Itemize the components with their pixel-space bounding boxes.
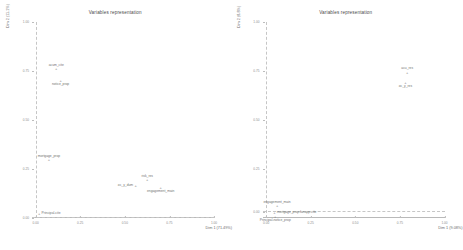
x-axis-label: Dim 1 (71.49%) — [206, 226, 232, 230]
y-tick-label: 0.25 — [253, 167, 262, 171]
point-label: oc_y_dum — [118, 185, 133, 188]
y-tick-label: 0.50 — [253, 118, 262, 122]
x-tick-label: 0.25 — [308, 218, 314, 225]
point-label: Principal-cite — [42, 213, 61, 216]
y-tick-label: 0.75 — [23, 69, 32, 73]
point-marker: + — [48, 158, 50, 162]
chart-panel-left: Variables representation 1.00 0.75 0.50 … — [0, 0, 231, 250]
point-marker: + — [55, 67, 57, 71]
chart-title: Variables representation — [0, 10, 231, 15]
plot-area-right: 1.00 0.75 0.50 0.25 0.00 0.00 0.25 0.50 … — [263, 22, 445, 218]
point-label: mortgage_prop-lanapp-cite — [277, 211, 317, 214]
y-axis-label: Dim 2 (8.8%) — [237, 6, 241, 28]
point-label: oc_y_res — [399, 85, 412, 88]
point-label: acu_res — [401, 67, 413, 70]
x-tick-label: 0.25 — [77, 218, 83, 225]
point-label: mortgage_prop — [38, 155, 60, 158]
x-tick-label: 0.50 — [122, 218, 128, 225]
point-label: engagement_main — [263, 201, 290, 204]
x-tick-label: 0.75 — [397, 218, 403, 225]
point-label: acum_cite — [49, 64, 64, 67]
y-axis-label: Dim 2 (11.1%) — [6, 4, 10, 28]
x-tick-label: 0.50 — [352, 218, 358, 225]
x-axis-label: Dim 1 (9.08%) — [438, 226, 462, 230]
point-label: engagement_main — [147, 190, 174, 193]
point-label: risk_res — [141, 174, 153, 177]
x-tick-label: 1.00 — [441, 218, 447, 225]
point-marker: + — [146, 178, 148, 182]
chart-title: Variables representation — [231, 10, 462, 15]
point-label: notice_prop — [52, 83, 69, 86]
vertical-reference-line — [266, 22, 267, 218]
y-tick-label: 0.25 — [23, 167, 32, 171]
x-tick-label: 0.00 — [33, 218, 39, 225]
point-marker: + — [276, 204, 278, 208]
y-tick-label: 0.75 — [253, 69, 262, 73]
y-tick-label: 0.50 — [23, 118, 32, 122]
x-tick-label: 1.00 — [211, 218, 217, 225]
y-tick-label: 1.00 — [23, 20, 32, 24]
point-marker: + — [38, 212, 40, 216]
point-label: Principal-notice_prop — [260, 219, 291, 222]
y-tick-label: 0.00 — [23, 216, 32, 220]
vertical-reference-line — [36, 22, 37, 218]
point-marker: + — [406, 71, 408, 75]
x-tick-label: 0.75 — [166, 218, 172, 225]
point-marker: + — [134, 184, 136, 188]
chart-panel-right: Variables representation 1.00 0.75 0.50 … — [231, 0, 462, 250]
plot-area-left: 1.00 0.75 0.50 0.25 0.00 0.00 0.25 0.50 … — [32, 22, 214, 218]
y-tick-label: 1.00 — [253, 20, 262, 24]
y-tick-label: 0.00 — [253, 210, 262, 214]
